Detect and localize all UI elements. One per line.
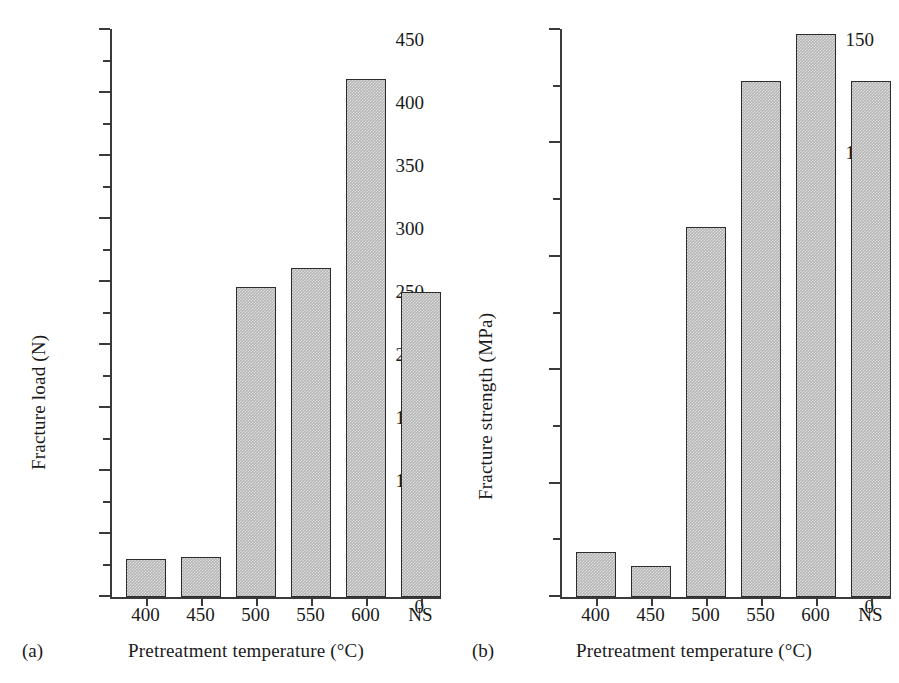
x-tick-label: NS [858, 604, 882, 626]
bar-600 [346, 79, 386, 597]
bar-500 [236, 287, 276, 597]
y-tick-minor [103, 564, 110, 566]
y-tick-minor [103, 60, 110, 62]
x-axis-label-a: Pretreatment temperature (°C) [128, 640, 364, 662]
figure-two-bar-charts: Fracture load (N) 0501001502002503003504… [0, 0, 899, 683]
y-tick-major [549, 141, 560, 143]
panel-caption-a: (a) [22, 640, 43, 662]
bar-550 [291, 268, 331, 597]
y-tick-major [99, 406, 110, 408]
bar-NS [851, 81, 891, 597]
y-tick-minor [103, 249, 110, 251]
y-tick-minor [553, 198, 560, 200]
bar-400 [576, 552, 616, 597]
x-tick-label: 450 [186, 604, 215, 626]
y-tick-major [549, 255, 560, 257]
y-tick-major [99, 91, 110, 93]
x-tick-label: 450 [636, 604, 665, 626]
x-tick-label: 600 [351, 604, 380, 626]
panel-caption-b: (b) [472, 640, 494, 662]
y-tick-major [549, 28, 560, 30]
y-tick-major [99, 280, 110, 282]
panel-b: Fracture strength (MPa) 0306090120150 Pr… [450, 0, 899, 683]
x-tick-label: 500 [241, 604, 270, 626]
plot-area-a: 050100150200250300350400450 [110, 30, 440, 597]
y-axis-line-b [560, 29, 562, 598]
y-axis-line-a [110, 29, 112, 598]
bar-450 [631, 566, 671, 597]
x-axis-line-a [110, 597, 441, 599]
y-tick-minor [553, 85, 560, 87]
y-tick-minor [103, 438, 110, 440]
y-tick-minor [103, 375, 110, 377]
x-tick-label: 400 [581, 604, 610, 626]
y-tick-minor [103, 312, 110, 314]
y-tick-minor [103, 186, 110, 188]
y-tick-minor [553, 312, 560, 314]
bar-NS [401, 292, 441, 597]
y-tick-major [549, 595, 560, 597]
y-tick-major [99, 532, 110, 534]
y-axis-label-a: Fracture load (N) [28, 335, 50, 470]
y-tick-major [99, 595, 110, 597]
plot-area-b: 0306090120150 [560, 30, 890, 597]
x-tick-label: 550 [746, 604, 775, 626]
y-axis-label-b: Fracture strength (MPa) [475, 313, 497, 500]
y-tick-major [549, 368, 560, 370]
y-tick-minor [553, 538, 560, 540]
y-tick-major [549, 482, 560, 484]
bar-400 [126, 559, 166, 597]
y-tick-minor [103, 123, 110, 125]
y-tick-minor [553, 425, 560, 427]
y-tick-major [99, 154, 110, 156]
x-tick-label: NS [408, 604, 432, 626]
x-axis-label-b: Pretreatment temperature (°C) [576, 640, 812, 662]
x-axis-line-b [560, 597, 891, 599]
bar-600 [796, 34, 836, 597]
bar-500 [686, 227, 726, 597]
x-tick-label: 500 [691, 604, 720, 626]
bar-550 [741, 81, 781, 597]
y-tick-major [99, 343, 110, 345]
y-tick-minor [103, 501, 110, 503]
x-tick-label: 550 [296, 604, 325, 626]
y-tick-major [99, 217, 110, 219]
x-tick-label: 400 [131, 604, 160, 626]
y-tick-major [99, 28, 110, 30]
bar-450 [181, 557, 221, 597]
y-tick-major [99, 469, 110, 471]
x-tick-label: 600 [801, 604, 830, 626]
panel-a: Fracture load (N) 0501001502002503003504… [0, 0, 449, 683]
